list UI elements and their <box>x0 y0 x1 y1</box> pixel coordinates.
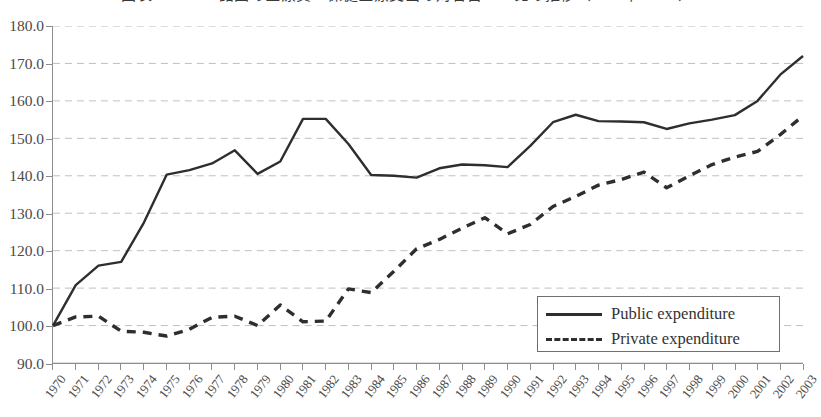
x-axis-tick <box>598 364 599 370</box>
series-line-1 <box>53 56 803 326</box>
x-axis-tick <box>803 364 804 370</box>
x-axis-label: 1993 <box>565 372 593 402</box>
x-axis-label: 1973 <box>110 372 138 402</box>
x-axis-tick <box>575 364 576 370</box>
x-axis-label: 1987 <box>428 372 456 402</box>
legend-swatch-dashed-icon <box>546 333 602 345</box>
legend-item-private: Private expenditure <box>546 326 771 351</box>
legend: Public expenditure Private expenditure <box>537 296 780 352</box>
x-axis-tick <box>302 364 303 370</box>
x-axis-label: 1982 <box>315 372 343 402</box>
x-axis-label: 1971 <box>64 372 92 402</box>
y-axis-label: 90.0 <box>0 355 44 373</box>
x-axis-tick <box>780 364 781 370</box>
x-axis-tick <box>712 364 713 370</box>
y-axis-label: 170.0 <box>0 54 44 72</box>
x-axis-tick <box>530 364 531 370</box>
x-axis-tick <box>211 364 212 370</box>
x-axis-label: 1989 <box>474 372 502 402</box>
x-axis-label: 1977 <box>201 372 229 402</box>
x-axis-tick <box>280 364 281 370</box>
y-axis-label: 110.0 <box>0 280 44 298</box>
x-axis-label: 1981 <box>292 372 320 402</box>
x-axis-label: 1998 <box>679 372 707 402</box>
x-axis-label: 1995 <box>610 372 638 402</box>
x-axis-label: 1994 <box>588 372 616 402</box>
y-axis-label: 140.0 <box>0 167 44 185</box>
x-axis-tick <box>553 364 554 370</box>
x-axis-tick <box>439 364 440 370</box>
x-axis-tick <box>189 364 190 370</box>
x-axis-label: 1999 <box>701 372 729 402</box>
x-axis-tick <box>393 364 394 370</box>
y-axis-label: 180.0 <box>0 17 44 35</box>
x-axis-tick <box>666 364 667 370</box>
y-axis-label: 160.0 <box>0 92 44 110</box>
y-axis-label: 120.0 <box>0 242 44 260</box>
y-axis-label: 150.0 <box>0 129 44 147</box>
x-axis-tick <box>75 364 76 370</box>
legend-item-public: Public expenditure <box>546 301 771 326</box>
x-axis-label: 2001 <box>747 372 775 402</box>
x-axis-label: 1983 <box>337 372 365 402</box>
x-axis-label: 2002 <box>770 372 798 402</box>
x-axis-label: 1986 <box>406 372 434 402</box>
x-axis-tick <box>120 364 121 370</box>
x-axis-label: 1975 <box>155 372 183 402</box>
x-axis-label: 1979 <box>246 372 274 402</box>
x-axis-tick <box>484 364 485 370</box>
legend-swatch-solid-icon <box>546 308 602 320</box>
y-axis-label: 130.0 <box>0 204 44 222</box>
x-axis-tick <box>166 364 167 370</box>
x-axis-tick <box>348 364 349 370</box>
x-axis-tick <box>757 364 758 370</box>
x-axis-tick <box>621 364 622 370</box>
x-axis-label: 1985 <box>383 372 411 402</box>
x-axis-tick <box>257 364 258 370</box>
x-axis-label: 1972 <box>87 372 115 402</box>
x-axis-label: 2000 <box>724 372 752 402</box>
legend-label-public: Public expenditure <box>611 304 735 324</box>
x-axis-label: 1980 <box>269 372 297 402</box>
x-axis-tick <box>143 364 144 370</box>
x-axis-label: 1984 <box>360 372 388 402</box>
x-axis-tick <box>98 364 99 370</box>
x-axis-label: 2003 <box>792 372 820 402</box>
x-axis-tick <box>644 364 645 370</box>
x-axis-label: 1990 <box>497 372 525 402</box>
x-axis-tick <box>735 364 736 370</box>
x-axis-label: 1974 <box>132 372 160 402</box>
x-axis-tick <box>52 364 53 370</box>
x-axis-tick <box>325 364 326 370</box>
x-axis-label: 1997 <box>656 372 684 402</box>
x-axis-tick <box>462 364 463 370</box>
x-axis-tick <box>371 364 372 370</box>
x-axis-label: 1988 <box>451 372 479 402</box>
x-axis-label: 1991 <box>519 372 547 402</box>
x-axis-tick <box>416 364 417 370</box>
x-axis-tick <box>234 364 235 370</box>
x-axis-tick <box>689 364 690 370</box>
x-axis-label: 1992 <box>542 372 570 402</box>
x-axis-tick <box>507 364 508 370</box>
x-axis-label: 1976 <box>178 372 206 402</box>
y-axis-label: 100.0 <box>0 317 44 335</box>
x-axis-label: 1996 <box>633 372 661 402</box>
legend-label-private: Private expenditure <box>611 329 740 349</box>
x-axis-label: 1970 <box>41 372 69 402</box>
x-axis-label: 1978 <box>224 372 252 402</box>
